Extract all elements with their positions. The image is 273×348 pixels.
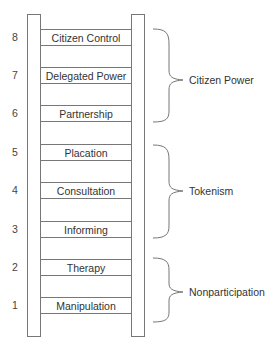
- brace-citizen-power-icon: [153, 29, 183, 122]
- group-label-tokenism: Tokenism: [189, 185, 233, 197]
- group-label-citizen-power: Citizen Power: [189, 74, 254, 86]
- group-label-nonparticipation: Nonparticipation: [189, 286, 265, 298]
- brace-nonparticipation-icon: [153, 258, 183, 322]
- brace-tokenism-icon: [153, 145, 183, 238]
